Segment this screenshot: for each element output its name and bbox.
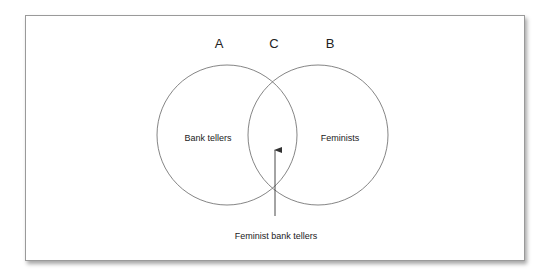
venn-diagram: A C B Bank tellers Feminists Feminist ba… — [0, 0, 554, 277]
letter-a: A — [215, 36, 224, 51]
intersection-label: Feminist bank tellers — [235, 231, 318, 241]
letter-b: B — [326, 36, 335, 51]
set-b-circle — [248, 65, 388, 205]
set-a-label: Bank tellers — [184, 133, 232, 143]
letter-c: C — [269, 36, 278, 51]
set-b-label: Feminists — [321, 133, 360, 143]
